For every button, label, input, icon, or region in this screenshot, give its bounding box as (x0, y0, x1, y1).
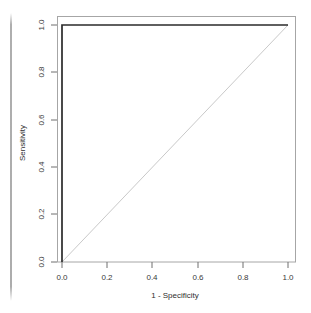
x-tick-label-0: 0.0 (56, 273, 68, 282)
x-axis-title: 1 - Specificity (151, 291, 199, 300)
y-tick-label-0p2: 0.2 (37, 208, 46, 220)
y-axis-tick-labels: 1.0 0.8 0.6 0.4 0.2 0.0 (37, 19, 46, 268)
x-tick-label-4: 0.8 (237, 273, 249, 282)
y-tick-label-0p6: 0.6 (37, 114, 46, 126)
y-axis-title: Sensitivity (18, 125, 27, 161)
chance-diagonal-line (62, 25, 288, 262)
roc-curve-figure: 0.0 0.2 0.4 0.6 0.8 1.0 1.0 0.8 0.6 0.4 … (0, 0, 311, 313)
x-tick-label-3: 0.6 (192, 273, 204, 282)
y-tick-label-1p0: 1.0 (37, 19, 46, 31)
x-tick-label-5: 1.0 (282, 273, 294, 282)
roc-plot-canvas: 0.0 0.2 0.4 0.6 0.8 1.0 1.0 0.8 0.6 0.4 … (0, 0, 311, 313)
y-axis-ticks (51, 25, 57, 262)
plot-frame-box (58, 17, 296, 263)
x-axis-ticks (62, 262, 288, 268)
y-tick-label-0p8: 0.8 (37, 66, 46, 78)
y-tick-label-0p4: 0.4 (37, 161, 46, 173)
x-axis-tick-labels: 0.0 0.2 0.4 0.6 0.8 1.0 (56, 273, 294, 282)
y-tick-label-0p0: 0.0 (37, 256, 46, 268)
x-tick-label-1: 0.2 (101, 273, 113, 282)
x-tick-label-2: 0.4 (146, 273, 158, 282)
